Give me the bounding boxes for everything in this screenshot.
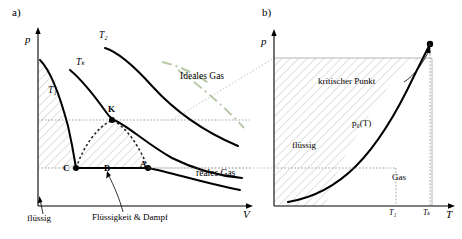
panel-a-y-axis-arrow [35,27,40,34]
panel-b-liquid-label: flüssig [292,140,316,150]
isotherm-tk-label: Tₖ [76,56,85,67]
point-a-label: A [140,159,147,169]
ideal-gas-label: Ideales Gas [180,71,224,81]
point-k-marker [109,117,115,123]
isotherm-t1-label: T₁ [48,85,57,95]
point-c-label: C [63,163,70,173]
point-c-marker [73,165,79,171]
isotherm-t2-label: T₂ [99,30,108,40]
panel-a [35,27,253,214]
real-gas-label: reales Gas [196,168,235,178]
panel-b-x-axis-label: T [446,208,452,220]
panel-b-p0-label: p₀(T) [352,118,371,128]
panel-b-gas-label: Gas [392,172,406,182]
panel-a-y-axis-label: p [25,33,31,45]
panel-a-letter: a) [12,6,21,18]
panel-b-critical-point-label: kritischer Punkt [318,76,375,86]
panel-a-twophase-label: Flüssigkeit & Dampf [92,212,168,222]
panel-b-y-axis-label: p [261,35,267,47]
panel-connector-critical [172,58,274,120]
panel-a-x-axis-label: V [243,208,250,220]
panel-a-liquid-hatch [38,60,148,206]
point-b-label: B [104,163,110,173]
panel-b-tick-t1: T₁ [389,208,396,217]
thermodynamics-figure [0,0,462,239]
panel-a-liquid-label: flüssig [27,213,51,223]
panel-b [148,29,455,209]
panel-b-y-axis-arrow [271,29,276,36]
point-k-label: K [108,104,115,114]
panel-b-letter: b) [262,6,271,18]
panel-b-tick-tk: Tₖ [423,208,430,217]
